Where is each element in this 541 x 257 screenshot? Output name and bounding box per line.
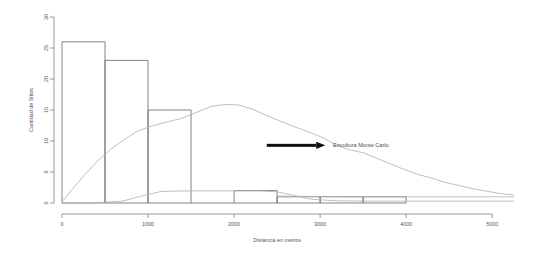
- x-tick-label: 0: [61, 221, 64, 227]
- histogram-bars: [62, 42, 406, 203]
- histogram-bar: [363, 197, 406, 203]
- histogram-bar: [277, 197, 320, 203]
- x-tick-label: 2000: [228, 221, 240, 227]
- histogram-bar: [148, 110, 191, 203]
- chart-annotation: Envoltura Monte Carlo: [267, 142, 389, 149]
- y-tick-label: 20: [43, 76, 49, 82]
- y-tick-label: 15: [43, 107, 49, 113]
- chart-container: 051015202530Cantidad de Sitios 010002000…: [0, 0, 541, 257]
- x-tick-label: 3000: [314, 221, 326, 227]
- histogram-bar: [105, 60, 148, 203]
- annotation-arrow-head: [316, 142, 325, 149]
- chart-plot-area: 051015202530Cantidad de Sitios 010002000…: [0, 0, 541, 257]
- x-tick-label: 1000: [142, 221, 154, 227]
- monte-carlo-envelope: [62, 104, 514, 203]
- annotation-label: Envoltura Monte Carlo: [333, 142, 389, 148]
- x-axis: 010002000300040005000Distancia en metros: [61, 214, 499, 243]
- y-tick-label: 0: [43, 202, 49, 205]
- y-tick-label: 10: [43, 138, 49, 144]
- y-tick-label: 25: [43, 45, 49, 51]
- x-tick-label: 5000: [486, 221, 498, 227]
- envelope-curve: [277, 196, 514, 197]
- x-tick-label: 4000: [400, 221, 412, 227]
- envelope-curve: [62, 104, 514, 201]
- y-axis-title: Cantidad de Sitios: [28, 88, 34, 132]
- y-tick-label: 5: [43, 171, 49, 174]
- y-tick-label: 30: [43, 14, 49, 20]
- histogram-bar: [62, 42, 105, 203]
- y-axis: 051015202530Cantidad de Sitios: [28, 14, 54, 205]
- annotation-arrow-shaft: [267, 144, 317, 147]
- histogram-bar: [234, 191, 277, 203]
- x-axis-title: Distancia en metros: [253, 237, 301, 243]
